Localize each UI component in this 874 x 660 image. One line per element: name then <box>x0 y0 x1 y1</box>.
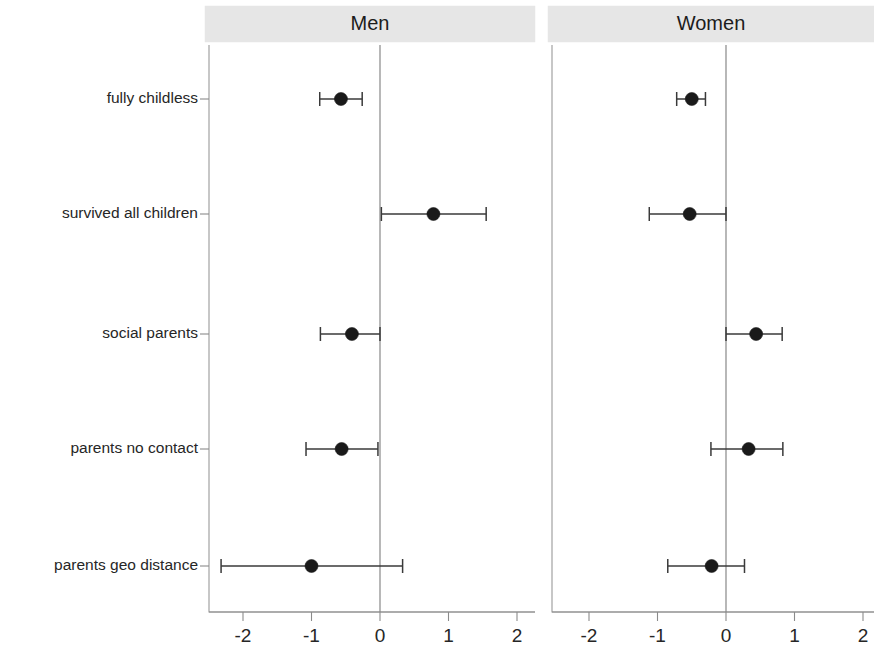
point-estimate-marker <box>750 328 763 341</box>
data-series-women <box>649 92 783 573</box>
x-tick-label: -1 <box>649 625 666 646</box>
point-estimate-marker <box>705 560 718 573</box>
x-tick-label: 2 <box>512 625 523 646</box>
panel-strip-men: Men <box>205 6 535 42</box>
x-tick-label: 0 <box>375 625 386 646</box>
point-estimate-marker <box>335 443 348 456</box>
y-tick-label-fully-childless: fully childless <box>107 89 199 106</box>
point-estimate-marker <box>742 443 755 456</box>
x-axis-ticks-women: -2-1012 <box>581 612 869 646</box>
x-tick-label: 2 <box>858 625 869 646</box>
interval-row <box>668 559 745 573</box>
interval-row <box>677 92 706 106</box>
interval-row <box>726 327 782 341</box>
strip-label-men: Men <box>351 12 390 34</box>
x-tick-label: 1 <box>443 625 454 646</box>
interval-row <box>381 207 486 221</box>
point-estimate-marker <box>427 208 440 221</box>
y-tick-label-survived-all-children: survived all children <box>62 204 198 221</box>
x-tick-label: -1 <box>303 625 320 646</box>
interval-row <box>306 442 378 456</box>
panel-frame-men <box>209 45 535 612</box>
y-tick-label-social-parents: social parents <box>102 324 198 341</box>
interval-row <box>649 207 726 221</box>
point-estimate-marker <box>345 328 358 341</box>
y-tick-label-parents-no-contact: parents no contact <box>70 439 198 456</box>
panel-frame-women <box>552 45 874 612</box>
plot-canvas: Men Women fully childless survived all c… <box>0 0 874 660</box>
x-tick-label: -2 <box>581 625 598 646</box>
interval-row <box>320 327 380 341</box>
interval-row <box>320 92 362 106</box>
x-tick-label: -2 <box>235 625 252 646</box>
x-axis-ticks-men: -2-1012 <box>235 612 523 646</box>
point-estimate-marker <box>685 93 698 106</box>
y-tick-label-parents-geo-distance: parents geo distance <box>54 556 198 573</box>
data-series-men <box>221 92 486 573</box>
interval-row <box>221 559 403 573</box>
forest-plot-figure: Men Women fully childless survived all c… <box>0 0 874 660</box>
y-axis-men: fully childless survived all children so… <box>54 89 209 573</box>
x-tick-label: 0 <box>721 625 732 646</box>
strip-label-women: Women <box>677 12 746 34</box>
x-tick-label: 1 <box>789 625 800 646</box>
panel-strip-women: Women <box>548 6 874 42</box>
interval-row <box>711 442 783 456</box>
point-estimate-marker <box>305 560 318 573</box>
point-estimate-marker <box>334 93 347 106</box>
point-estimate-marker <box>683 208 696 221</box>
